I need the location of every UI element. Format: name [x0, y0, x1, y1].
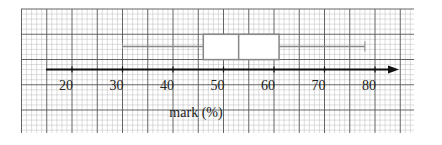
box-plot	[123, 34, 365, 59]
x-axis: 20304050607080	[46, 66, 399, 93]
arrow-right-icon	[388, 66, 399, 74]
tick-label: 40	[160, 78, 174, 93]
interquartile-box	[203, 34, 279, 59]
tick-label: 60	[261, 78, 275, 93]
tick-label: 20	[59, 78, 73, 93]
tick-label: 70	[312, 78, 326, 93]
tick-label: 30	[110, 78, 124, 93]
tick-label: 80	[362, 78, 376, 93]
tick-label: 50	[211, 78, 225, 93]
x-axis-title: mark (%)	[169, 105, 223, 121]
box-plot-chart: 20304050607080 mark (%)	[0, 0, 442, 145]
